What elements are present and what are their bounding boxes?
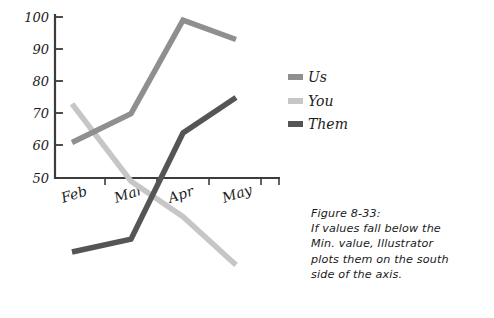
series-line-us <box>72 20 236 142</box>
x-tick-label-feb: Feb <box>58 183 89 207</box>
chart-series-group <box>72 20 236 265</box>
legend-label-you: You <box>308 93 333 109</box>
legend-swatch-them <box>288 121 303 127</box>
caption-line-1: Figure 8-33: <box>311 206 487 221</box>
legend-item-them[interactable]: Them <box>288 116 348 132</box>
caption-line-4: plots them on the south <box>311 252 487 267</box>
chart-legend: Us You Them <box>288 69 348 132</box>
y-tick-label: 90 <box>32 42 49 57</box>
figure-container: 100 90 80 70 60 50 Feb Mar Apr May Us <box>0 0 494 318</box>
y-tick-label: 70 <box>32 106 49 121</box>
caption-line-3: Min. value, Illustrator <box>311 236 487 251</box>
caption-line-2: If values fall below the <box>311 221 487 236</box>
legend-swatch-us <box>288 74 303 80</box>
legend-swatch-you <box>288 98 303 104</box>
x-tick-label-apr: Apr <box>164 182 197 206</box>
y-tick-label: 50 <box>32 171 49 186</box>
y-tick-label: 100 <box>24 10 49 25</box>
legend-item-you[interactable]: You <box>288 93 333 109</box>
y-tick-label: 80 <box>32 74 49 89</box>
x-tick-label-may: May <box>219 181 255 206</box>
axis-lines <box>55 14 280 178</box>
legend-label-them: Them <box>308 116 348 132</box>
y-axis-ticks <box>55 17 63 145</box>
figure-caption: Figure 8-33: If values fall below the Mi… <box>311 206 487 282</box>
y-tick-label: 60 <box>32 138 49 153</box>
caption-line-5: side of the axis. <box>311 267 487 282</box>
y-axis-tick-labels: 100 90 80 70 60 50 <box>24 10 49 186</box>
legend-item-us[interactable]: Us <box>288 69 327 85</box>
series-line-them <box>72 98 236 253</box>
legend-label-us: Us <box>308 69 327 85</box>
